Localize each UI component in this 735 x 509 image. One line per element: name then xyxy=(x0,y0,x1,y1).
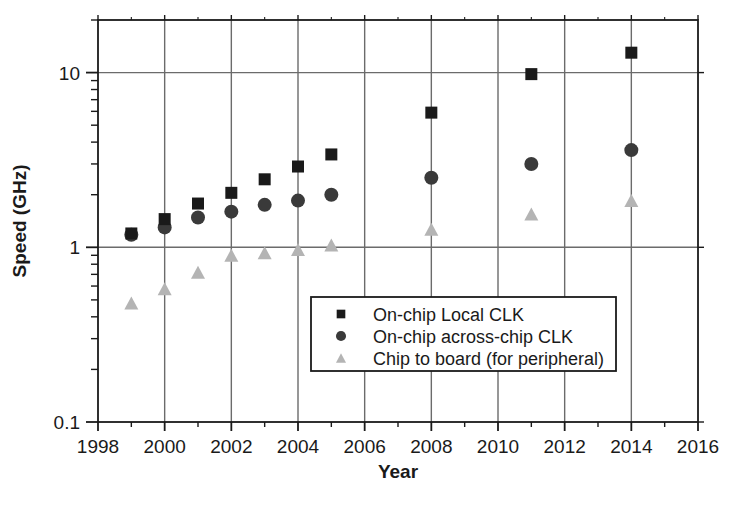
legend-item-label: On-chip across-chip CLK xyxy=(373,327,573,347)
y-tick-label: 1 xyxy=(69,237,80,258)
x-tick-label: 2010 xyxy=(477,436,519,457)
x-tick-label: 2008 xyxy=(410,436,452,457)
x-tick-label: 2002 xyxy=(210,436,252,457)
x-tick-label: 2000 xyxy=(144,436,186,457)
marker-circle xyxy=(324,188,338,202)
marker-square xyxy=(259,173,271,185)
x-axis-title: Year xyxy=(378,461,419,482)
chart-background xyxy=(0,0,735,509)
marker-circle xyxy=(224,205,238,219)
marker-circle xyxy=(258,198,272,212)
marker-square xyxy=(325,148,337,160)
y-tick-label: 10 xyxy=(59,63,80,84)
x-tick-label: 2012 xyxy=(544,436,586,457)
y-tick-label: 0.1 xyxy=(54,412,80,433)
marker-circle xyxy=(524,157,538,171)
marker-square xyxy=(292,161,304,173)
marker-square xyxy=(125,227,137,239)
marker-square xyxy=(192,198,204,210)
marker-square xyxy=(225,187,237,199)
marker-square xyxy=(525,68,537,80)
y-axis-title: Speed (GHz) xyxy=(9,165,30,278)
legend-box: On-chip Local CLKOn-chip across-chip CLK… xyxy=(311,297,616,371)
x-tick-label: 1998 xyxy=(77,436,119,457)
marker-square xyxy=(625,47,637,59)
marker-circle xyxy=(624,143,638,157)
speed-vs-year-scatter-chart: 1998200020022004200620082010201220142016… xyxy=(0,0,735,509)
x-tick-label: 2004 xyxy=(277,436,320,457)
x-tick-label: 2014 xyxy=(610,436,653,457)
chart-container: 1998200020022004200620082010201220142016… xyxy=(0,0,735,509)
x-tick-label: 2016 xyxy=(677,436,719,457)
marker-circle xyxy=(424,171,438,185)
marker-circle xyxy=(291,194,305,208)
marker-square xyxy=(425,107,437,119)
marker-square xyxy=(159,213,171,225)
marker-circle xyxy=(191,211,205,225)
legend-item-label: On-chip Local CLK xyxy=(373,305,524,325)
legend-item-label: Chip to board (for peripheral) xyxy=(373,349,604,369)
marker-square xyxy=(337,310,346,319)
x-tick-label: 2006 xyxy=(344,436,386,457)
marker-circle xyxy=(336,331,346,341)
